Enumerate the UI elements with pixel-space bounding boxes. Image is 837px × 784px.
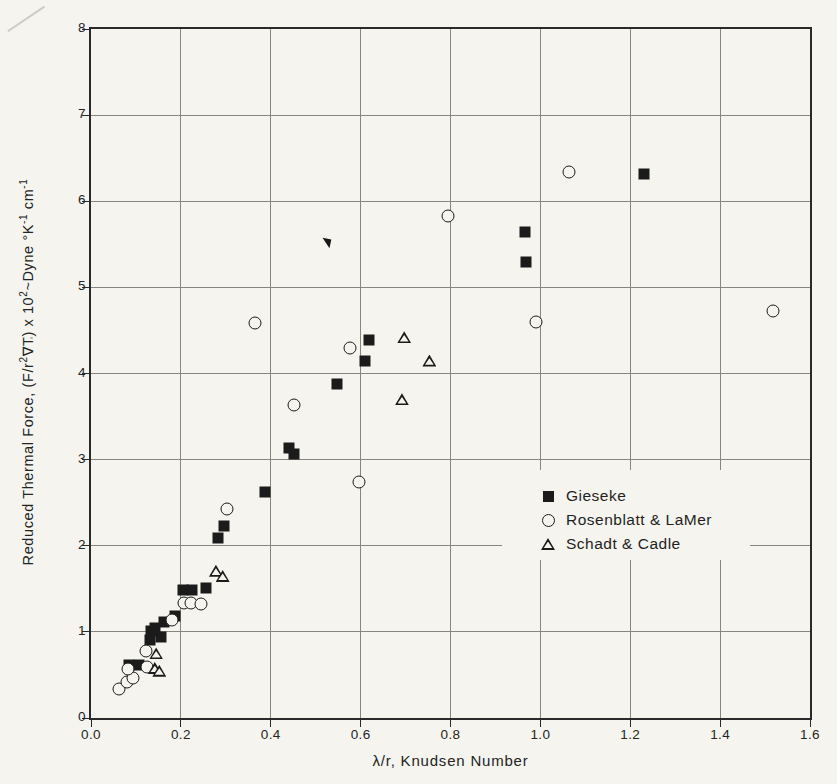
x-tick-label: 1.2 — [608, 727, 652, 742]
data-point-open-circle — [442, 209, 455, 222]
y-tick-label: 1 — [46, 623, 86, 641]
scatter-chart-figure: Gieseke Rosenblatt & LaMer Schadt & Cadl… — [0, 0, 837, 784]
x-axis-label: λ/r, Knudsen Number — [89, 752, 812, 769]
y-tick-label: 4 — [46, 365, 86, 383]
legend: Gieseke Rosenblatt & LaMer Schadt & Cadl… — [502, 470, 750, 560]
data-point-open-circle — [249, 316, 262, 329]
open-circle-marker-icon — [542, 514, 555, 527]
data-point-open-circle — [221, 502, 234, 515]
x-tick-label: 0.6 — [339, 727, 383, 742]
y-tick-label: 7 — [46, 106, 86, 124]
data-point-open-circle — [166, 613, 179, 626]
filled-square-marker-icon — [538, 491, 558, 502]
x-tick-label: 1.4 — [698, 727, 742, 742]
data-point-filled-square — [519, 227, 530, 238]
open-circle-marker-icon — [538, 514, 558, 527]
legend-label-rosenblatt-lamer: Rosenblatt & LaMer — [566, 511, 712, 529]
x-axis-tick — [630, 720, 631, 727]
y-tick-label: 3 — [46, 451, 86, 469]
data-point-open-circle — [122, 662, 135, 675]
x-axis-tick — [810, 720, 811, 727]
data-point-filled-square — [187, 584, 198, 595]
legend-item-schadt-cadle: Schadt & Cadle — [538, 532, 750, 556]
y-axis-label: Reduced Thermal Force, (F/r2∇T) x 102~Dy… — [18, 179, 36, 566]
x-tick-label: 1.0 — [518, 727, 562, 742]
x-tick-label: 0.2 — [159, 727, 203, 742]
legend-label-schadt-cadle: Schadt & Cadle — [566, 535, 681, 553]
data-point-filled-square — [332, 378, 343, 389]
x-axis-tick — [540, 720, 541, 727]
x-axis-tick — [91, 720, 92, 727]
data-point-open-circle — [287, 399, 300, 412]
filled-square-marker-icon — [543, 491, 554, 502]
gridline-vertical — [360, 29, 361, 718]
x-tick-label: 0.0 — [69, 727, 113, 742]
data-point-filled-square — [521, 256, 532, 267]
gridline-vertical — [270, 29, 271, 718]
y-tick-label: 2 — [46, 537, 86, 555]
data-point-filled-square — [260, 487, 271, 498]
y-tick-label: 8 — [46, 20, 86, 38]
data-point-open-circle — [529, 315, 542, 328]
y-tick-label: 0 — [46, 709, 86, 727]
data-point-open-circle — [352, 476, 365, 489]
legend-item-gieseke: Gieseke — [538, 484, 750, 508]
x-axis-tick — [450, 720, 451, 727]
data-point-filled-square — [201, 582, 212, 593]
data-point-open-circle — [343, 341, 356, 354]
x-tick-label: 0.4 — [249, 727, 293, 742]
x-axis-tick — [180, 720, 181, 727]
x-axis-tick — [720, 720, 721, 727]
data-point-filled-square — [283, 442, 294, 453]
gridline-vertical — [630, 29, 631, 718]
scan-streak-artifact — [7, 6, 44, 32]
x-tick-label: 1.6 — [788, 727, 832, 742]
data-point-filled-square — [363, 334, 374, 345]
x-axis-tick — [360, 720, 361, 727]
data-point-filled-square — [219, 520, 230, 531]
plot-area: Gieseke Rosenblatt & LaMer Schadt & Cadl… — [89, 27, 812, 720]
x-axis-tick — [270, 720, 271, 727]
data-point-filled-square — [359, 355, 370, 366]
data-point-open-circle — [140, 644, 153, 657]
y-tick-label: 5 — [46, 278, 86, 296]
data-point-open-circle — [766, 305, 779, 318]
data-point-open-triangle — [422, 355, 436, 367]
open-triangle-marker-icon — [541, 538, 555, 550]
data-point-open-circle — [195, 598, 208, 611]
x-tick-label: 0.8 — [429, 727, 473, 742]
open-triangle-marker-icon — [538, 538, 558, 550]
y-tick-label: 6 — [46, 192, 86, 210]
stray-arrowhead-artifact — [321, 237, 332, 248]
data-point-filled-square — [639, 168, 650, 179]
data-point-filled-square — [212, 532, 223, 543]
gridline-vertical — [540, 29, 541, 718]
gridline-vertical — [450, 29, 451, 718]
data-point-open-circle — [562, 165, 575, 178]
data-point-open-triangle — [395, 393, 409, 405]
legend-item-rosenblatt-lamer: Rosenblatt & LaMer — [538, 508, 750, 532]
legend-label-gieseke: Gieseke — [566, 487, 626, 505]
gridline-vertical — [720, 29, 721, 718]
data-point-open-triangle — [397, 331, 411, 343]
data-point-filled-square — [156, 632, 167, 643]
